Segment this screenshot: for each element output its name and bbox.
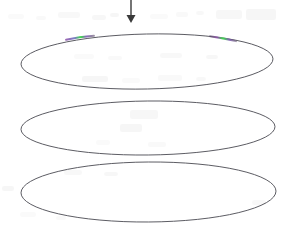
highlight-group [66,36,236,41]
arrow-head [127,15,136,23]
ellipse-bottom [21,161,276,223]
ellipse-middle [21,100,276,157]
figure-container [0,0,288,229]
ellipse-group [20,31,276,223]
ellipse-stack-figure [0,0,288,229]
downward-arrow-icon [127,0,136,23]
highlight-right-arc [210,36,236,41]
